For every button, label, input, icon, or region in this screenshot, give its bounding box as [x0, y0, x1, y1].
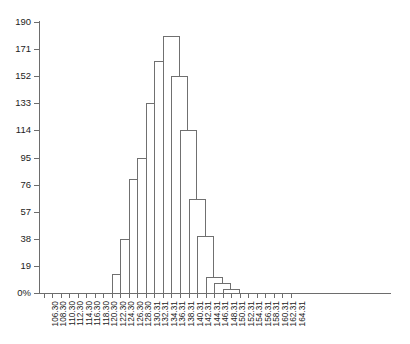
x-axis-tick-label: 158.31: [269, 301, 277, 326]
x-axis-tick: [291, 293, 292, 298]
x-axis-tick-label: 142.31: [201, 301, 209, 326]
y-axis-tick: [34, 185, 39, 186]
x-axis-tick: [171, 293, 172, 298]
x-axis-tick: [154, 293, 155, 298]
x-axis-tick-label: 108.30: [56, 301, 64, 326]
x-axis-tick: [52, 293, 53, 298]
x-axis-tick: [44, 293, 45, 298]
x-axis-tick: [265, 293, 266, 298]
x-axis-tick: [257, 293, 258, 298]
x-axis-tick: [206, 293, 207, 298]
x-axis-tick-label: 138.31: [184, 301, 192, 326]
y-axis-tick: [34, 158, 39, 159]
x-axis-tick: [197, 293, 198, 298]
x-axis-tick: [214, 293, 215, 298]
x-axis-tick: [129, 293, 130, 298]
y-axis-tick: [34, 266, 39, 267]
histogram-chart: 0%1938577695114133152171190 106.30108.30…: [0, 0, 410, 344]
x-axis-tick: [223, 293, 224, 298]
histogram-bar: [223, 289, 240, 293]
x-axis-tick: [69, 293, 70, 298]
x-axis-tick: [231, 293, 232, 298]
x-axis-tick-label: 146.31: [218, 301, 226, 326]
y-axis-line: [39, 21, 40, 294]
x-axis-tick: [240, 293, 241, 298]
y-axis-tick: [34, 239, 39, 240]
x-axis-tick-label: 132.31: [158, 301, 166, 326]
x-axis-tick: [163, 293, 164, 298]
x-axis-tick-label: 164.31: [295, 301, 303, 326]
x-axis-tick-label: 128.30: [141, 301, 149, 326]
y-axis-tick: [34, 76, 39, 77]
x-axis-tick: [95, 293, 96, 298]
x-axis-tick-label: 154.31: [252, 301, 260, 326]
x-axis-tick-label: 162.31: [286, 301, 294, 326]
x-axis-tick-label: 150.31: [235, 301, 243, 326]
x-axis-tick: [248, 293, 249, 298]
y-axis-tick: [34, 22, 39, 23]
x-axis-tick: [146, 293, 147, 298]
y-axis-tick: [34, 49, 39, 50]
x-axis-tick: [112, 293, 113, 298]
x-axis-tick: [274, 293, 275, 298]
x-axis-tick: [86, 293, 87, 298]
x-axis-tick: [103, 293, 104, 298]
x-axis-line: [39, 293, 391, 294]
x-axis-tick-label: 120.30: [107, 301, 115, 326]
x-axis-tick-label: 136.31: [175, 301, 183, 326]
x-axis-tick: [120, 293, 121, 298]
x-axis-tick-label: 112.30: [73, 301, 81, 326]
y-axis-tick: [34, 103, 39, 104]
y-axis-tick: [34, 130, 39, 131]
y-axis-tick: [34, 212, 39, 213]
x-axis-tick: [78, 293, 79, 298]
y-axis-tick: [34, 293, 39, 294]
x-axis-tick-label: 124.30: [124, 301, 132, 326]
x-axis-tick-label: 116.30: [90, 301, 98, 326]
x-axis-tick: [180, 293, 181, 298]
x-axis-tick: [61, 293, 62, 298]
x-axis-tick: [137, 293, 138, 298]
x-axis-tick: [282, 293, 283, 298]
x-axis-tick: [189, 293, 190, 298]
